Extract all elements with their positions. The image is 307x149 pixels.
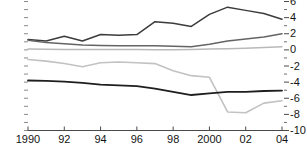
x-axis-tick-label: 04 [262, 134, 302, 145]
line-chart: 6420-2-4-6-8-10 19909294969820000204 [0, 0, 307, 149]
data-line-series-5 [28, 81, 282, 96]
x-axis-tick-label: 2000 [189, 134, 229, 145]
data-line-series-1 [28, 7, 282, 41]
y-axis-minor-ticks-left [24, 2, 28, 131]
x-axis-tick-label: 96 [117, 134, 157, 145]
x-axis-tick-label: 02 [226, 134, 266, 145]
y-axis-tick-label: 0 [290, 44, 296, 55]
y-axis-tick-label: 2 [290, 28, 296, 39]
x-axis-tick-label: 94 [81, 134, 121, 145]
y-axis-tick-label: 4 [290, 12, 296, 23]
x-axis-tick-label: 92 [44, 134, 84, 145]
x-axis-tick-label: 1990 [8, 134, 48, 145]
x-axis-ticks [28, 127, 282, 131]
chart-plot-area [0, 0, 307, 149]
y-axis-tick-label: -4 [290, 77, 300, 88]
data-line-series-4 [28, 60, 282, 113]
data-series-group [28, 7, 282, 113]
y-axis-tick-label: -2 [290, 61, 300, 72]
x-axis-tick-label: 98 [153, 134, 193, 145]
y-axis-tick-label: -8 [290, 109, 300, 120]
data-line-series-3 [28, 47, 282, 50]
y-axis-ticks-right [284, 2, 289, 131]
data-line-series-2 [28, 34, 282, 47]
y-axis-tick-label: -6 [290, 93, 300, 104]
y-axis-tick-label: 6 [290, 0, 296, 7]
